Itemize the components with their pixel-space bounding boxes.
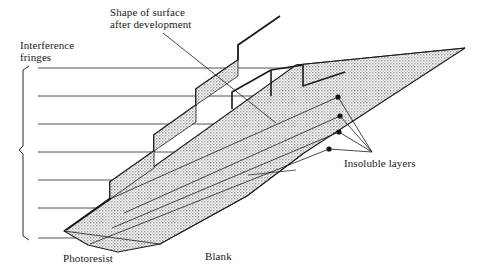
label-interference-fringes: Interference fringes xyxy=(20,39,74,63)
label-photoresist: Photoresist xyxy=(63,252,113,264)
interference-bracket xyxy=(19,66,29,240)
leader-line xyxy=(340,116,372,152)
leader-line xyxy=(329,149,372,152)
label-shape-of-surface: Shape of surface after development xyxy=(110,6,191,30)
diagram-page: Shape of surface after development Inter… xyxy=(0,0,479,273)
leader-line xyxy=(339,132,372,152)
label-blank: Blank xyxy=(205,250,232,262)
label-insoluble-layers: Insoluble layers xyxy=(344,157,416,169)
